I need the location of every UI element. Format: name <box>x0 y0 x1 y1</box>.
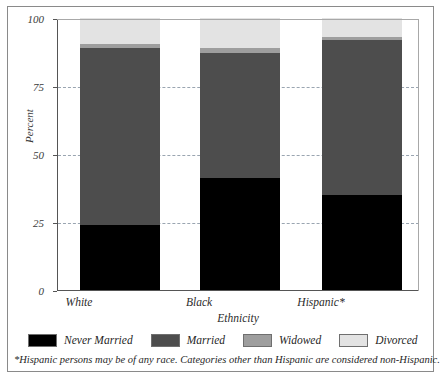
y-tick-label-50: 50 <box>0 150 44 161</box>
y-tick-label-75: 75 <box>0 82 44 93</box>
x-tick-label-hispanic: Hispanic* <box>261 296 381 308</box>
y-tick-mark-0 <box>53 291 57 292</box>
legend-label-widowed: Widowed <box>279 334 321 346</box>
legend-label-married: Married <box>187 334 225 346</box>
segment-hispanic-widowed <box>322 37 402 40</box>
legend-swatch-never-married <box>28 334 57 347</box>
bar-white[interactable] <box>80 18 160 290</box>
segment-black-married <box>200 53 280 178</box>
legend-item-widowed[interactable]: Widowed <box>243 334 321 347</box>
segment-hispanic-never-married <box>322 195 402 290</box>
legend-item-divorced[interactable]: Divorced <box>339 334 417 347</box>
legend-swatch-married <box>151 334 180 347</box>
segment-black-widowed <box>200 48 280 53</box>
segment-white-married <box>80 48 160 225</box>
segment-hispanic-married <box>322 40 402 195</box>
plot-border-right <box>418 19 419 291</box>
chart-figure: Percent 100 75 50 25 0 <box>0 0 445 383</box>
segment-white-widowed <box>80 44 160 48</box>
legend-label-never-married: Never Married <box>64 334 133 346</box>
segment-black-divorced <box>200 18 280 48</box>
y-tick-label-100: 100 <box>0 14 44 25</box>
segment-white-divorced <box>80 18 160 44</box>
legend-item-never-married[interactable]: Never Married <box>28 334 133 347</box>
bar-hispanic[interactable] <box>322 18 402 290</box>
segment-white-never-married <box>80 225 160 290</box>
legend-label-divorced: Divorced <box>375 334 417 346</box>
x-tick-label-white: White <box>19 296 139 308</box>
legend-swatch-widowed <box>243 334 272 347</box>
legend-swatch-divorced <box>339 334 368 347</box>
chart-footnote: *Hispanic persons may be of any race. Ca… <box>14 354 429 365</box>
chart-legend: Never Married Married Widowed Divorced <box>28 331 418 349</box>
plot-area <box>57 19 419 291</box>
plot-border-top <box>57 19 419 20</box>
x-axis-title: Ethnicity <box>57 312 419 324</box>
x-tick-label-black: Black <box>139 296 259 308</box>
segment-hispanic-divorced <box>322 18 402 37</box>
bar-black[interactable] <box>200 18 280 290</box>
legend-item-married[interactable]: Married <box>151 334 225 347</box>
y-tick-label-25: 25 <box>0 218 44 229</box>
segment-black-never-married <box>200 178 280 290</box>
